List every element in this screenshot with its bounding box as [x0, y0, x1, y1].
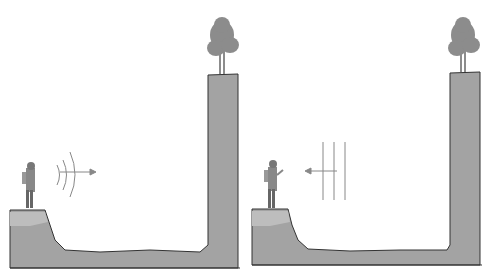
hiker-icon: [22, 162, 35, 208]
panel-left: [10, 17, 240, 268]
tree-icon: [448, 17, 480, 72]
hiker-icon: [264, 160, 283, 208]
canyon-terrain: [10, 74, 238, 268]
sound-waves-returning: [305, 142, 345, 200]
sound-waves-outgoing: [57, 152, 96, 197]
panel-right: [252, 17, 482, 265]
canyon-terrain: [252, 72, 480, 265]
echo-diagram: [0, 0, 496, 277]
tree-icon: [207, 17, 239, 74]
